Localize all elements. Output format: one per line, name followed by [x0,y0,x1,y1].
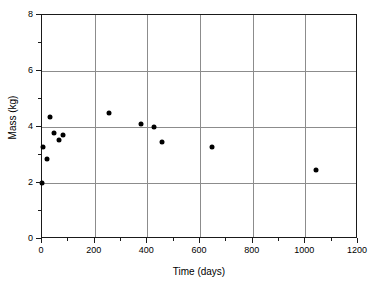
gridline-horizontal [42,127,356,128]
x-axis-major-tick [304,238,305,243]
y-axis-tick-label: 0 [11,233,33,243]
x-axis-tick-label: 0 [38,245,43,255]
scatter-plot-figure: Mass (kg) Time (days) 020040060080010001… [0,0,377,290]
x-axis-major-tick [94,238,95,243]
x-axis-tick-label: 200 [86,245,101,255]
y-axis-minor-tick [38,98,41,99]
x-axis-major-tick [199,238,200,243]
data-point [41,144,46,149]
x-axis-tick-label: 600 [191,245,206,255]
y-axis-tick-label: 8 [11,9,33,19]
data-point [159,140,164,145]
gridline-vertical [147,15,148,237]
x-axis-label: Time (days) [41,266,357,277]
x-axis-tick-label: 800 [244,245,259,255]
x-axis-minor-tick [278,238,279,241]
plot-area [41,14,357,238]
y-axis-minor-tick [38,154,41,155]
data-point [51,130,56,135]
x-axis-minor-tick [67,238,68,241]
data-point [47,115,52,120]
data-point [61,133,66,138]
x-axis-tick-label: 1000 [294,245,314,255]
x-axis-minor-tick [225,238,226,241]
gridline-vertical [305,15,306,237]
x-axis-minor-tick [120,238,121,241]
gridline-vertical [253,15,254,237]
y-axis-minor-tick [38,210,41,211]
y-axis-major-tick [36,70,41,71]
y-axis-tick-label: 6 [11,65,33,75]
gridline-horizontal [42,71,356,72]
x-axis-major-tick [146,238,147,243]
gridline-vertical [95,15,96,237]
x-axis-minor-tick [331,238,332,241]
y-axis-major-tick [36,238,41,239]
x-axis-minor-tick [173,238,174,241]
x-axis-major-tick [41,238,42,243]
x-axis-tick-label: 1200 [347,245,367,255]
gridline-horizontal [42,183,356,184]
x-axis-major-tick [357,238,358,243]
data-point [138,122,143,127]
data-point [313,168,318,173]
y-axis-major-tick [36,182,41,183]
data-point [45,157,50,162]
y-axis-major-tick [36,14,41,15]
y-axis-major-tick [36,126,41,127]
x-axis-major-tick [252,238,253,243]
y-axis-tick-label: 4 [11,121,33,131]
y-axis-label: Mass (kg) [7,78,18,158]
data-point [107,111,112,116]
data-point [151,125,156,130]
x-axis-tick-label: 400 [139,245,154,255]
y-axis-tick-label: 2 [11,177,33,187]
gridline-vertical [200,15,201,237]
data-point [209,144,214,149]
y-axis-minor-tick [38,42,41,43]
data-point [57,137,62,142]
